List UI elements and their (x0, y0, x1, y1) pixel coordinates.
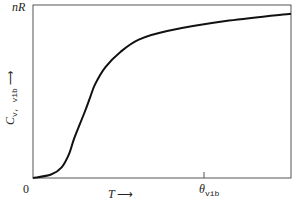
x-axis-symbol: T (108, 187, 114, 201)
y-axis-label: Cv, vib ⟶ (3, 71, 18, 125)
theta-subscript: vib (205, 189, 219, 198)
chart-plot-area (0, 0, 303, 207)
y-max-label: nR (12, 0, 25, 15)
y-axis-arrow-icon: ⟶ (5, 71, 16, 85)
heat-capacity-curve (33, 14, 291, 178)
chart-frame (33, 5, 291, 178)
x-axis-label: T ⟶ (108, 187, 133, 202)
y-axis-subscript: v, vib (10, 88, 19, 117)
y-axis-symbol: C (3, 117, 17, 125)
x-axis-arrow-icon: ⟶ (117, 188, 133, 200)
origin-label: 0 (23, 182, 29, 197)
theta-vib-label: θvib (199, 182, 219, 197)
